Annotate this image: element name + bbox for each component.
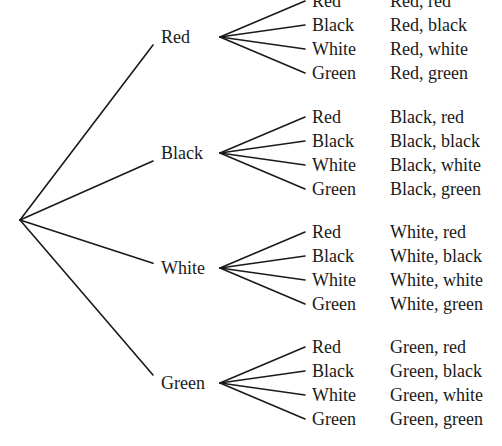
outcome-label: White, white <box>390 270 483 290</box>
outcome-label: Red, red <box>390 0 451 11</box>
outcome-label: Black, red <box>390 107 464 127</box>
second-draw-node-label: White <box>312 385 356 405</box>
second-draw-node-label: Black <box>312 361 354 381</box>
outcome-label: Red, black <box>390 15 467 35</box>
second-draw-node-label: White <box>312 155 356 175</box>
second-draw-node-label: White <box>312 270 356 290</box>
outcome-label: Black, green <box>390 179 481 199</box>
second-draw-node-label: Green <box>312 409 356 429</box>
outcome-label: Green, red <box>390 337 466 357</box>
outcome-label: Red, green <box>390 63 468 83</box>
outcome-label: Black, black <box>390 131 480 151</box>
root-branch-edge <box>20 161 153 220</box>
second-draw-node-label: Green <box>312 179 356 199</box>
first-draw-node-label: Green <box>161 373 205 393</box>
outcome-label: Green, white <box>390 385 483 405</box>
outcome-label: White, red <box>390 222 466 242</box>
second-draw-node-label: White <box>312 39 356 59</box>
second-draw-node-label: Red <box>312 222 341 242</box>
tree-diagram: RedRedRed, redBlackRed, blackWhiteRed, w… <box>0 0 502 446</box>
outcome-label: Red, white <box>390 39 468 59</box>
second-draw-node-label: Red <box>312 107 341 127</box>
first-draw-node-label: White <box>161 258 205 278</box>
outcome-label: White, black <box>390 246 482 266</box>
second-draw-node-label: Green <box>312 294 356 314</box>
second-draw-node-label: Black <box>312 246 354 266</box>
root-branch-edge <box>20 220 153 263</box>
outcome-label: Black, white <box>390 155 481 175</box>
outcome-label: Green, green <box>390 409 483 429</box>
second-draw-node-label: Black <box>312 15 354 35</box>
second-draw-node-label: Green <box>312 63 356 83</box>
second-draw-node-label: Black <box>312 131 354 151</box>
second-draw-node-label: Red <box>312 0 341 11</box>
second-draw-node-label: Red <box>312 337 341 357</box>
root-branch-edge <box>20 220 153 375</box>
first-draw-node-label: Red <box>161 27 190 47</box>
outcome-label: White, green <box>390 294 483 314</box>
outcome-label: Green, black <box>390 361 482 381</box>
root-branch-edge <box>20 45 153 220</box>
first-draw-node-label: Black <box>161 143 203 163</box>
